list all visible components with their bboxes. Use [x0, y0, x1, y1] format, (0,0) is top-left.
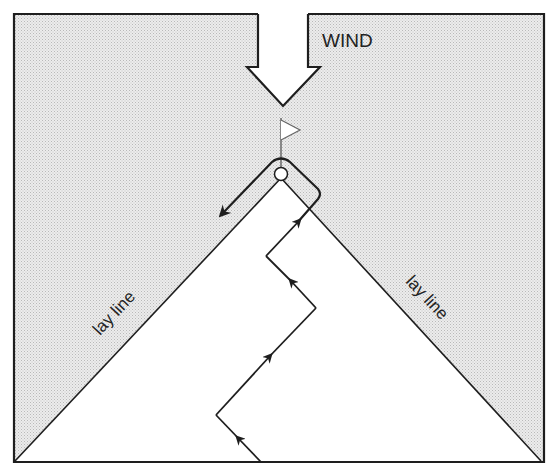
upwind-sailing-diagram: WIND lay line lay line — [0, 0, 549, 467]
windward-mark-buoy — [275, 168, 288, 181]
wind-label: WIND — [322, 30, 373, 51]
